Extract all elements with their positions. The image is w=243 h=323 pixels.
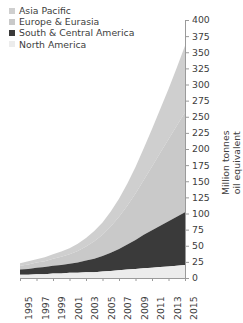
- x-tick-label: 1995: [24, 296, 33, 320]
- area-series-group: [20, 46, 185, 278]
- y-tick-label: 50: [192, 241, 204, 250]
- x-tick-label: 2001: [74, 296, 83, 320]
- y-axis-title-line2: oil equivalent: [232, 130, 243, 195]
- y-tick-label: 25: [192, 257, 204, 266]
- x-tick-label: 2009: [140, 296, 149, 320]
- y-tick-label: 100: [192, 209, 210, 218]
- y-tick-label: 400: [192, 15, 210, 24]
- x-tick-label: 1997: [41, 296, 50, 320]
- y-tick-label: 375: [192, 32, 210, 41]
- x-tick-label: 2005: [107, 296, 116, 320]
- y-tick-label: 0: [192, 273, 198, 282]
- y-tick-label: 250: [192, 112, 210, 121]
- y-tick-label: 150: [192, 177, 210, 186]
- y-axis-title-line1: Million tonnes: [221, 130, 232, 195]
- x-tick-label: 2007: [123, 296, 132, 320]
- y-tick-label: 300: [192, 80, 210, 89]
- y-tick-label: 75: [192, 225, 204, 234]
- y-tick-label: 175: [192, 161, 210, 170]
- chart-root: Asia Pacific Europe & Eurasia South & Ce…: [0, 0, 243, 323]
- y-tick-label: 125: [192, 193, 210, 202]
- x-tick-label: 1999: [57, 296, 66, 320]
- y-tick-label: 200: [192, 144, 210, 153]
- y-axis-title: Million tonnes oil equivalent: [221, 130, 242, 195]
- y-tick-label: 225: [192, 128, 210, 137]
- x-tick-label: 2003: [90, 296, 99, 320]
- x-tick-label: 2013: [173, 296, 182, 320]
- y-tick-label: 350: [192, 48, 210, 57]
- y-tick-label: 325: [192, 64, 210, 73]
- x-tick-label: 2015: [189, 296, 198, 320]
- x-tick-label: 2011: [156, 296, 165, 320]
- y-tick-label: 275: [192, 96, 210, 105]
